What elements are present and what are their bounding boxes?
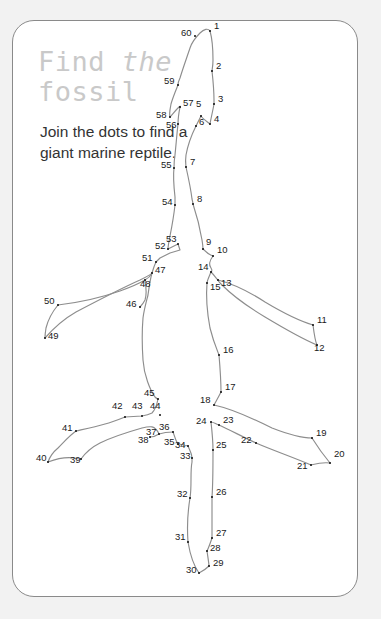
puzzle-dot (310, 464, 313, 467)
page-root: Find the fossil Join the dots to find a … (0, 0, 381, 619)
puzzle-dot (202, 248, 205, 251)
puzzle-dot-number: 13 (221, 278, 232, 288)
puzzle-dot-number: 42 (112, 401, 123, 411)
puzzle-dot (213, 404, 216, 407)
puzzle-dot-number: 20 (334, 449, 345, 459)
puzzle-dot (195, 125, 198, 128)
puzzle-dot-number: 10 (217, 245, 228, 255)
puzzle-dot-number: 56 (166, 120, 177, 130)
puzzle-dot (212, 255, 215, 258)
puzzle-dot (210, 271, 213, 274)
puzzle-dot-number: 5 (196, 99, 201, 109)
puzzle-dot-number: 6 (199, 117, 204, 127)
puzzle-dot (185, 166, 188, 169)
puzzle-dot (57, 304, 60, 307)
puzzle-dot-number: 8 (197, 194, 202, 204)
puzzle-dot-number: 26 (216, 487, 227, 497)
puzzle-dot (177, 84, 180, 87)
puzzle-dot-number: 9 (206, 237, 211, 247)
puzzle-dot-number: 27 (216, 528, 227, 538)
puzzle-dot-number: 59 (164, 76, 175, 86)
puzzle-dot (208, 565, 211, 568)
puzzle-dot-number: 16 (223, 345, 234, 355)
puzzle-dot-number: 23 (223, 415, 234, 425)
puzzle-dot (75, 430, 78, 433)
puzzle-dot-number: 58 (156, 110, 167, 120)
puzzle-dot (139, 306, 142, 309)
puzzle-dot (177, 243, 180, 246)
puzzle-dot (189, 497, 192, 500)
puzzle-dot-number: 40 (36, 453, 47, 463)
puzzle-dot (172, 431, 175, 434)
puzzle-dot-number: 54 (162, 197, 173, 207)
puzzle-dot (206, 282, 209, 285)
puzzle-dot (206, 550, 209, 553)
puzzle-dot (177, 123, 180, 126)
puzzle-dot (179, 106, 182, 109)
puzzle-dot (169, 116, 172, 119)
puzzle-dot (151, 272, 154, 275)
puzzle-dot-number: 4 (214, 114, 219, 124)
puzzle-dot (220, 391, 223, 394)
puzzle-dot (218, 424, 221, 427)
puzzle-dot (194, 35, 197, 38)
puzzle-dot (210, 421, 213, 424)
puzzle-dot (187, 541, 190, 544)
puzzle-dot (209, 30, 212, 33)
puzzle-dot-number: 51 (142, 253, 153, 263)
puzzle-dot (167, 248, 170, 251)
puzzle-dot-number: 30 (186, 565, 197, 575)
puzzle-dot (255, 442, 258, 445)
puzzle-dot-number: 55 (161, 160, 172, 170)
puzzle-dot (159, 414, 162, 417)
puzzle-dot-number: 25 (216, 440, 227, 450)
puzzle-dot (211, 537, 214, 540)
puzzle-dot-number: 36 (159, 422, 170, 432)
puzzle-dot-number: 33 (180, 451, 191, 461)
puzzle-dot (213, 103, 216, 106)
puzzle-dot-number: 3 (218, 94, 223, 104)
puzzle-dot (198, 572, 201, 575)
puzzle-dot-number: 15 (210, 282, 221, 292)
puzzle-dot-number: 17 (225, 382, 236, 392)
puzzle-dot (209, 123, 212, 126)
puzzle-dot-number: 24 (196, 416, 207, 426)
puzzle-dot (141, 415, 144, 418)
puzzle-dot-number: 50 (44, 296, 55, 306)
puzzle-dot-number: 29 (213, 558, 224, 568)
puzzle-dot-number: 52 (155, 241, 166, 251)
puzzle-dot-number: 49 (48, 331, 59, 341)
puzzle-dot-number: 45 (144, 388, 155, 398)
puzzle-dot-number: 47 (155, 265, 166, 275)
puzzle-dot (192, 203, 195, 206)
puzzle-dot (174, 204, 177, 207)
puzzle-dot (191, 457, 194, 460)
puzzle-dot (211, 496, 214, 499)
puzzle-dot (329, 462, 332, 465)
puzzle-dot-number: 22 (241, 435, 252, 445)
puzzle-dot (44, 337, 47, 340)
dot-markers-layer: 1234567891011121314151617181920212223242… (0, 0, 381, 619)
puzzle-dot-number: 34 (175, 440, 186, 450)
puzzle-dot (124, 416, 127, 419)
puzzle-dot-number: 39 (70, 455, 81, 465)
puzzle-dot (173, 167, 176, 170)
puzzle-dot-number: 7 (190, 157, 195, 167)
puzzle-dot (212, 449, 215, 452)
puzzle-dot (149, 436, 152, 439)
puzzle-dot-number: 21 (297, 461, 308, 471)
puzzle-dot (218, 354, 221, 357)
puzzle-dot-number: 12 (314, 343, 325, 353)
puzzle-dot-number: 19 (316, 428, 327, 438)
puzzle-dot (311, 437, 314, 440)
puzzle-dot-number: 35 (164, 437, 175, 447)
puzzle-dot-number: 28 (210, 543, 221, 553)
puzzle-dot-number: 44 (150, 401, 161, 411)
puzzle-dot-number: 2 (216, 61, 221, 71)
puzzle-dot-number: 46 (126, 299, 137, 309)
puzzle-dot-number: 43 (132, 401, 143, 411)
puzzle-dot (312, 324, 315, 327)
puzzle-dot-number: 18 (200, 395, 211, 405)
puzzle-dot-number: 57 (183, 98, 194, 108)
puzzle-dot-number: 41 (62, 423, 73, 433)
